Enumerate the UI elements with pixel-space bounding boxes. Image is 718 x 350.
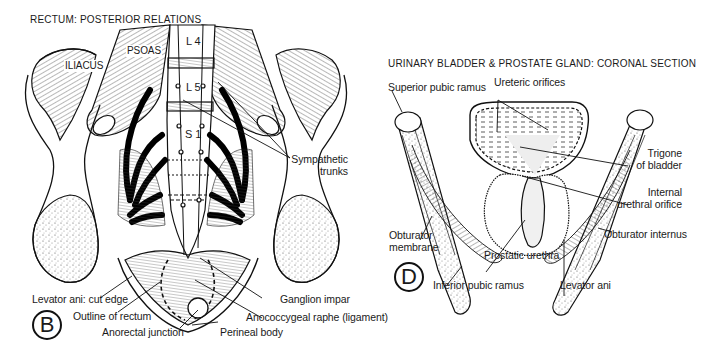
- obturator-membrane-label-line2: membrane: [389, 241, 438, 253]
- outline-of-rectum-label: Outline of rectum: [73, 310, 151, 322]
- vertebra-s1-label: S 1: [185, 128, 201, 140]
- psoas-label: PSOAS: [126, 45, 162, 57]
- prostatic-urethra-label: Prostatic urethra: [484, 249, 559, 261]
- internal-urethral-orifice-label-line1: Internal: [600, 186, 682, 198]
- vertebra-l5-label: L 5: [186, 81, 201, 93]
- inferior-pubic-ramus-label: Inferior pubic ramus: [433, 279, 524, 291]
- perineal-body-label: Perineal body: [220, 326, 283, 338]
- ureteric-orifices-label: Ureteric orifices: [494, 76, 565, 88]
- figure-d-title: URINARY BLADDER & PROSTATE GLAND: CORONA…: [388, 58, 696, 69]
- internal-urethral-orifice-label-line2: urethral orifice: [600, 198, 682, 210]
- figure-b-title: RECTUM: POSTERIOR RELATIONS: [30, 14, 201, 25]
- trigone-label-line1: Trigone: [620, 147, 682, 159]
- superior-pubic-ramus-label: Superior pubic ramus: [388, 81, 486, 93]
- obturator-internus-label: Obturator internus: [604, 228, 687, 240]
- figure-b-badge: B: [32, 310, 62, 340]
- obturator-membrane-label-line1: Obturator: [389, 229, 432, 241]
- trigone-label-line2: of bladder: [620, 159, 682, 171]
- vertebra-l4-label: L 4: [186, 35, 201, 47]
- ganglion-impar-label: Ganglion impar: [280, 293, 350, 305]
- sympathetic-trunks-label-line2: trunks: [288, 165, 348, 177]
- levator-ani-cut-edge-label: Levator ani: cut edge: [32, 293, 128, 305]
- sympathetic-trunks-label-line1: Sympathetic: [288, 153, 348, 165]
- levator-ani-label: Levator ani: [560, 279, 611, 291]
- anorectal-junction-label: Anorectal junction: [102, 326, 184, 338]
- figure-d-badge: D: [394, 262, 424, 292]
- iliacus-label: ILIACUS: [64, 60, 104, 72]
- anococcygeal-raphe-label: Anococcygeal raphe (ligament): [246, 311, 388, 323]
